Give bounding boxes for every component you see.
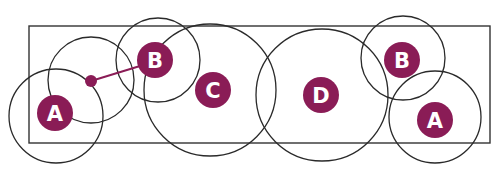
badge-label: B <box>394 49 410 73</box>
badge-label: C <box>205 79 220 103</box>
connector <box>85 66 140 87</box>
connector-line <box>91 66 140 81</box>
range-circles <box>9 16 481 163</box>
connector-dot <box>85 75 97 87</box>
badge-label: D <box>312 84 329 108</box>
badge-a-right: A <box>417 102 453 138</box>
badge-label: A <box>47 102 64 126</box>
label-badges: ABCDBA <box>37 42 453 138</box>
badge-c: C <box>195 72 231 108</box>
badge-label: B <box>147 49 163 73</box>
badge-label: A <box>427 109 444 133</box>
badge-b-left: B <box>137 42 173 78</box>
diagram-canvas: ABCDBA <box>0 0 495 171</box>
badge-d: D <box>303 77 339 113</box>
badge-a-left: A <box>37 95 73 131</box>
badge-b-right: B <box>384 42 420 78</box>
circle-overlap-diagram: ABCDBA <box>0 0 495 171</box>
